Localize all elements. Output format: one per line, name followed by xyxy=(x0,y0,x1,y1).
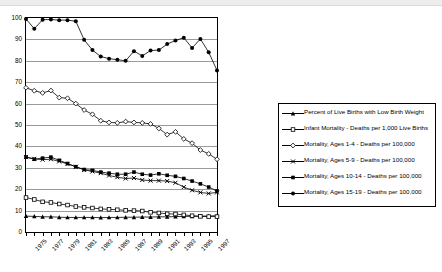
x-axis-tick xyxy=(43,233,44,236)
gridline xyxy=(26,61,217,62)
gridline xyxy=(26,168,217,169)
legend-label: Percent of Live Births with Low Birth We… xyxy=(304,108,432,115)
legend-item[interactable]: Percent of Live Births with Low Birth We… xyxy=(282,108,432,123)
legend-marker-open-square-icon xyxy=(282,125,304,134)
x-axis-tick xyxy=(184,233,185,236)
x-axis-tick xyxy=(217,233,218,236)
plot-area xyxy=(25,17,218,233)
x-axis-tick-label: 1995 xyxy=(200,238,214,252)
y-axis-tick-label: 20 xyxy=(0,186,22,192)
y-axis-tick-label: 40 xyxy=(0,143,22,149)
x-axis-tick xyxy=(151,233,152,236)
legend-label: Mortality, Ages 10-14 - Deaths per 100,0… xyxy=(304,172,432,179)
x-axis-tick-label: 1991 xyxy=(167,238,181,252)
y-axis-tick-label: 30 xyxy=(0,165,22,171)
x-axis-tick xyxy=(175,233,176,236)
x-axis-tick-label: 1975 xyxy=(34,238,48,252)
y-axis-tick-label: 0 xyxy=(0,229,22,235)
x-axis-tick xyxy=(101,233,102,236)
y-axis-tick-label: 70 xyxy=(0,79,22,85)
x-axis-tick xyxy=(68,233,69,236)
y-axis-tick-label: 10 xyxy=(0,208,22,214)
x-axis-tick xyxy=(26,233,27,236)
y-axis-tick-label: 80 xyxy=(0,58,22,64)
legend-marker-open-diamond-icon xyxy=(282,141,304,150)
x-axis-tick xyxy=(92,233,93,236)
y-axis-tick-label: 100 xyxy=(0,15,22,21)
legend-marker-filled-square-icon xyxy=(282,173,304,182)
gridline xyxy=(26,125,217,126)
legend-label: Infant Mortality - Deaths per 1,000 Live… xyxy=(304,124,432,131)
legend-marker-x-icon xyxy=(282,157,304,166)
x-axis-tick xyxy=(84,233,85,236)
x-axis-tick xyxy=(200,233,201,236)
x-axis-tick xyxy=(142,233,143,236)
x-axis-tick xyxy=(209,233,210,236)
x-axis-tick-label: 1993 xyxy=(184,238,198,252)
x-axis-tick xyxy=(51,233,52,236)
x-axis-tick-label: 1985 xyxy=(117,238,131,252)
gridline xyxy=(26,211,217,212)
x-axis-tick xyxy=(159,233,160,236)
x-axis-tick xyxy=(76,233,77,236)
x-axis-tick-label: 1983 xyxy=(100,238,114,252)
legend-item[interactable]: Infant Mortality - Deaths per 1,000 Live… xyxy=(282,124,432,139)
y-axis-tick-label: 60 xyxy=(0,101,22,107)
legend-label: Mortality, Ages 1-4 - Deaths per 100,000 xyxy=(304,140,432,147)
x-axis-tick-label: 1981 xyxy=(84,238,98,252)
legend-marker-filled-triangle-icon xyxy=(282,109,304,118)
chart-legend: Percent of Live Births with Low Birth We… xyxy=(278,103,436,207)
x-axis-tick-label: 1989 xyxy=(150,238,164,252)
gridline xyxy=(26,189,217,190)
gridline xyxy=(26,104,217,105)
legend-item[interactable]: Mortality, Ages 10-14 - Deaths per 100,0… xyxy=(282,172,432,187)
legend-label: Mortality, Ages 15-19 - Deaths per 100,0… xyxy=(304,188,432,195)
x-axis-tick xyxy=(134,233,135,236)
y-axis-tick-label: 90 xyxy=(0,36,22,42)
x-axis-tick-label: 1979 xyxy=(67,238,81,252)
x-axis-tick-label: 1987 xyxy=(134,238,148,252)
x-axis-tick-label: 1997 xyxy=(217,238,231,252)
legend-label: Mortality, Ages 5-9 - Deaths per 100,000 xyxy=(304,156,432,163)
x-axis-tick xyxy=(34,233,35,236)
gridline xyxy=(26,82,217,83)
x-axis-tick xyxy=(117,233,118,236)
chart-screenshot: 0102030405060708090100 19751977197919811… xyxy=(0,0,442,272)
x-axis-tick-label: 1977 xyxy=(51,238,65,252)
x-axis-tick xyxy=(167,233,168,236)
x-axis-tick xyxy=(126,233,127,236)
gridline xyxy=(26,146,217,147)
legend-item[interactable]: Mortality, Ages 15-19 - Deaths per 100,0… xyxy=(282,188,432,203)
legend-marker-filled-circle-icon xyxy=(282,189,304,198)
x-axis-tick xyxy=(192,233,193,236)
x-axis-tick xyxy=(59,233,60,236)
y-axis-tick-label: 50 xyxy=(0,122,22,128)
legend-item[interactable]: Mortality, Ages 5-9 - Deaths per 100,000 xyxy=(282,156,432,171)
legend-item[interactable]: Mortality, Ages 1-4 - Deaths per 100,000 xyxy=(282,140,432,155)
window-top-strip xyxy=(0,0,442,6)
gridline xyxy=(26,39,217,40)
x-axis-tick xyxy=(109,233,110,236)
